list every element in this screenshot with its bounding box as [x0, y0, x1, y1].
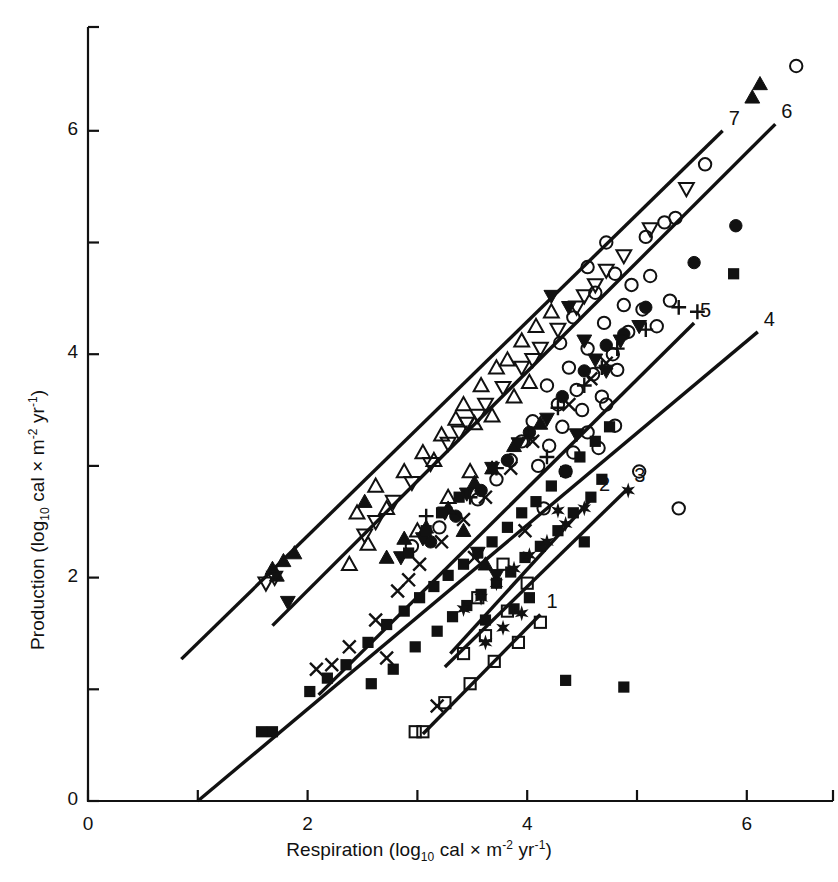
- data-point-filled-up-triangle: [745, 90, 760, 103]
- data-point-filled-square: [322, 673, 333, 684]
- data-point-filled-square: [579, 536, 590, 547]
- fit-lines-group: [181, 124, 775, 801]
- data-point-filled-down-triangle: [577, 335, 592, 348]
- data-point-open-circle: [532, 460, 544, 472]
- data-point-filled-square: [403, 547, 414, 558]
- axes-group: [88, 27, 833, 801]
- data-point-open-circle: [598, 317, 610, 329]
- fit-line-label-4: 4: [764, 308, 775, 331]
- fit-line-label-6: 6: [781, 100, 792, 123]
- data-point-open-circle: [790, 60, 802, 72]
- figure-root: Respiration (log10 cal × m-2 yr-1) Produ…: [0, 0, 838, 882]
- data-point-open-circle: [433, 521, 445, 533]
- fit-line-label-3: 3: [634, 464, 645, 487]
- x-tick-label-2: 2: [294, 813, 322, 835]
- fit-line-label-5: 5: [700, 299, 711, 322]
- x-axis-title-mid: cal × m: [434, 839, 502, 860]
- data-point-filled-square: [381, 619, 392, 630]
- data-point-open-down-triangle: [616, 250, 631, 263]
- axis-spines: [88, 27, 833, 801]
- data-point-filled-square: [546, 480, 557, 491]
- x-axis-title-mid2: yr: [513, 839, 534, 860]
- data-point-open-up-triangle: [544, 304, 559, 317]
- y-axis-title: Production (log10 cal × m-2 yr-1): [26, 390, 52, 650]
- data-point-plus: [671, 300, 686, 315]
- data-point-filled-square: [436, 507, 447, 518]
- x-axis-title-main: Respiration (log: [286, 839, 421, 860]
- data-point-open-circle: [625, 279, 637, 291]
- data-point-open-circle: [673, 502, 685, 514]
- data-point-filled-square: [428, 581, 439, 592]
- x-axis-title-sup2: -1: [535, 838, 546, 852]
- data-point-open-up-triangle: [415, 445, 430, 458]
- data-point-open-down-triangle: [599, 265, 614, 278]
- fit-line-label-2: 2: [599, 473, 610, 496]
- data-point-filled-square: [728, 268, 739, 279]
- data-point-plus: [419, 509, 434, 524]
- data-point-filled-square: [304, 686, 315, 697]
- data-point-cross-x: [310, 663, 323, 676]
- data-point-star: [496, 620, 510, 636]
- data-point-open-up-triangle: [474, 378, 489, 391]
- scatter-plot-canvas: [0, 0, 838, 882]
- data-point-filled-square: [421, 525, 432, 536]
- y-axis-title-end: ): [27, 390, 48, 396]
- data-point-filled-up-triangle: [397, 531, 412, 544]
- data-point-filled-square: [399, 606, 410, 617]
- data-point-open-up-triangle: [397, 464, 412, 477]
- data-point-filled-circle: [640, 301, 652, 313]
- data-point-open-up-triangle: [529, 319, 544, 332]
- data-point-open-up-triangle: [456, 397, 471, 410]
- data-point-open-up-triangle: [368, 479, 383, 492]
- data-point-open-circle: [543, 440, 555, 452]
- data-point-filled-up-triangle: [357, 494, 372, 507]
- data-point-filled-square: [560, 466, 571, 477]
- data-point-filled-down-triangle: [562, 302, 577, 315]
- data-point-filled-square: [524, 592, 535, 603]
- data-point-open-down-triangle: [679, 183, 694, 196]
- data-point-cross-x: [413, 558, 426, 571]
- data-point-filled-square: [568, 507, 579, 518]
- y-tick-label-0: 0: [52, 788, 78, 810]
- data-point-filled-square: [458, 559, 469, 570]
- data-points-group: [256, 60, 803, 738]
- data-point-filled-square: [604, 421, 615, 432]
- data-point-filled-square: [560, 675, 571, 686]
- data-point-filled-square: [516, 507, 527, 518]
- data-point-cross-x: [343, 640, 356, 653]
- y-axis-title-mid2: yr: [27, 407, 48, 428]
- fit-line-label-7: 7: [729, 107, 740, 130]
- y-axis-title-sup1: -2: [26, 428, 40, 439]
- data-point-open-circle: [576, 404, 588, 416]
- data-point-cross-x: [431, 700, 444, 713]
- data-point-cross-x: [584, 372, 597, 385]
- data-point-filled-square: [530, 496, 541, 507]
- data-point-filled-circle: [688, 256, 700, 268]
- y-tick-label-4: 4: [52, 341, 78, 363]
- data-point-open-circle: [541, 379, 553, 391]
- data-point-filled-down-triangle: [613, 335, 628, 348]
- fit-line-label-1: 1: [546, 590, 557, 613]
- data-point-filled-square: [590, 436, 601, 447]
- data-point-cross-x: [402, 573, 415, 586]
- data-point-open-square: [410, 726, 421, 737]
- y-axis-title-main: Production (log: [27, 521, 48, 650]
- y-axis-title-mid: cal × m: [27, 439, 48, 507]
- data-point-filled-square: [574, 451, 585, 462]
- x-axis-title-sup1: -2: [502, 838, 513, 852]
- x-axis-title-sub: 10: [421, 850, 435, 864]
- data-point-open-up-triangle: [514, 333, 529, 346]
- data-point-open-circle: [556, 421, 568, 433]
- data-point-filled-square: [362, 637, 373, 648]
- data-point-filled-square: [340, 659, 351, 670]
- x-axis-title: Respiration (log10 cal × m-2 yr-1): [0, 838, 838, 864]
- data-point-cross-x: [369, 614, 382, 627]
- x-tick-label-0: 0: [74, 813, 102, 835]
- data-point-filled-square: [267, 726, 278, 737]
- data-point-cross-x: [391, 585, 404, 598]
- data-point-open-circle: [644, 270, 656, 282]
- data-point-open-circle: [664, 294, 676, 306]
- y-tick-label-6: 6: [52, 118, 78, 140]
- data-point-filled-square: [410, 641, 421, 652]
- fit-line-6: [272, 124, 775, 626]
